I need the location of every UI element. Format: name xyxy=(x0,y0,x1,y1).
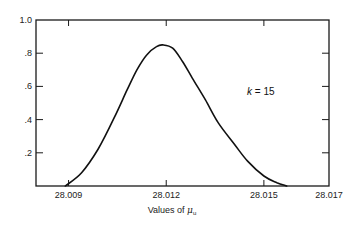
plot-frame xyxy=(36,20,329,186)
y-tick-label: .4 xyxy=(24,115,32,125)
density-curve xyxy=(65,45,286,186)
y-tick-label: .2 xyxy=(24,148,32,158)
x-tick-label: 28.017 xyxy=(315,190,343,200)
y-axis-ticks: .2.4.6.81.0 xyxy=(19,15,329,158)
curve-annotation: k = 15 xyxy=(247,86,275,97)
y-tick-label: .8 xyxy=(24,48,32,58)
x-tick-label: 28.012 xyxy=(152,190,180,200)
y-tick-label: 1.0 xyxy=(19,15,32,25)
x-tick-label: 28.015 xyxy=(250,190,278,200)
chart: 28.00928.01228.01528.017 .2.4.6.81.0 k =… xyxy=(0,0,357,229)
x-tick-label: 28.009 xyxy=(55,190,83,200)
y-tick-label: .6 xyxy=(24,81,32,91)
x-axis-title: Values of μu xyxy=(148,205,197,216)
x-axis-ticks: 28.00928.01228.01528.017 xyxy=(55,20,343,200)
